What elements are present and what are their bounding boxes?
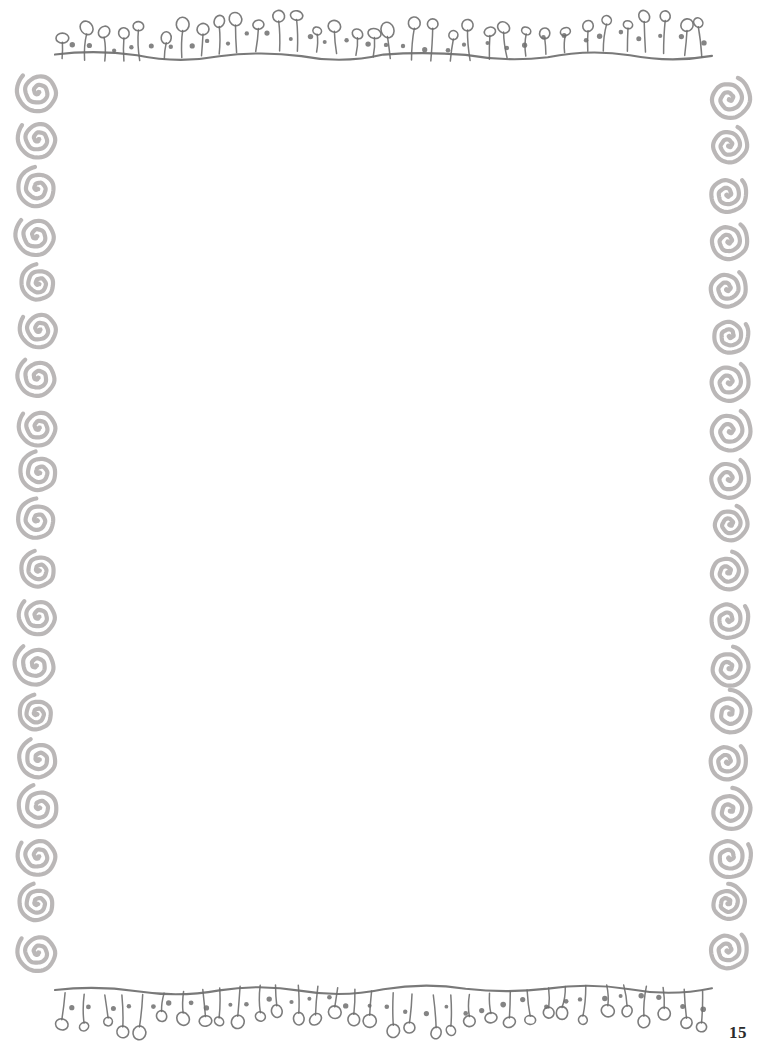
flower-stem-wavy-line-top: [55, 8, 712, 61]
page-content-area: [62, 80, 702, 970]
spiral-column-left: [11, 67, 62, 977]
spiral-column-right: [704, 77, 757, 973]
stationery-page: 15: [0, 0, 765, 1053]
page-number: 15: [729, 1024, 747, 1041]
flower-stem-wavy-line-bottom: [54, 985, 712, 1041]
